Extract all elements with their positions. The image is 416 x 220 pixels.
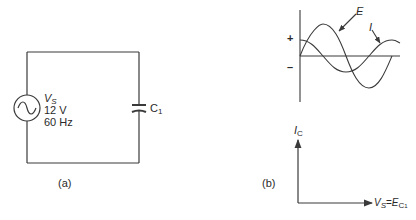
source-voltage-label: 12 V xyxy=(44,105,67,116)
plus-label: + xyxy=(287,33,293,44)
caption-b: (b) xyxy=(262,178,275,189)
waveform-graph xyxy=(300,10,400,102)
phasor-y-label: IC xyxy=(294,125,303,138)
capacitor-name-sub: 1 xyxy=(158,107,162,116)
voltage-wave-label: E xyxy=(356,6,363,17)
phasor-y-sub: C xyxy=(297,129,303,138)
current-wave-label: I xyxy=(369,22,372,33)
minus-label: – xyxy=(287,62,293,73)
phasor-x-ec: E xyxy=(392,197,399,208)
capacitor-name: C xyxy=(150,102,158,114)
circuit-a xyxy=(14,52,146,163)
phasor-x-vs: V xyxy=(374,197,381,208)
phasor-diagram xyxy=(298,140,372,203)
source-frequency-label: 60 Hz xyxy=(44,117,73,128)
ac-source-icon xyxy=(14,95,40,121)
i-leader xyxy=(372,30,380,43)
phasor-x-label: VS=EC1 xyxy=(374,198,408,210)
phasor-x-ec-subsub: 1 xyxy=(404,203,407,209)
caption-a: (a) xyxy=(58,178,71,189)
capacitor-icon xyxy=(132,105,146,112)
e-leader xyxy=(339,14,356,31)
capacitor-label: C1 xyxy=(150,103,162,116)
